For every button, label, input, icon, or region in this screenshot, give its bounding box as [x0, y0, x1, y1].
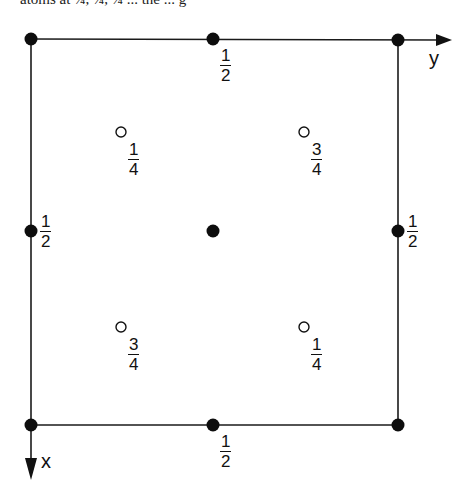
unit-cell-frame: [31, 39, 440, 470]
atom-corner-tl: [25, 33, 38, 46]
label-edge-left: 1 2: [40, 213, 51, 250]
atom-corner-tr: [392, 34, 405, 47]
atom-open-tl: [116, 127, 126, 137]
label-open-tr: 3 4: [311, 141, 322, 178]
axis-label-y: y: [429, 48, 439, 68]
filled-atoms: [25, 33, 405, 432]
atom-center: [207, 225, 220, 238]
axis-label-x: x: [41, 451, 51, 471]
atom-corner-bl: [25, 419, 38, 432]
atom-edge-bottom: [207, 419, 220, 432]
atom-edge-right: [392, 225, 405, 238]
atom-open-bl: [116, 322, 126, 332]
atom-corner-br: [392, 419, 405, 432]
label-edge-bottom: 1 2: [220, 433, 231, 470]
atom-open-br: [299, 322, 309, 332]
label-open-bl: 3 4: [128, 336, 139, 373]
unit-cell-diagram: [0, 0, 465, 496]
label-edge-top: 1 2: [220, 47, 231, 84]
label-edge-right: 1 2: [407, 213, 418, 250]
atom-open-tr: [299, 127, 309, 137]
atom-edge-top: [207, 33, 220, 46]
y-axis-line: [31, 39, 440, 40]
x-axis-arrow-icon: [25, 458, 37, 480]
label-open-br: 1 4: [311, 336, 322, 373]
atom-edge-left: [25, 225, 38, 238]
label-open-tl: 1 4: [128, 141, 139, 178]
y-axis-arrow-icon: [436, 34, 452, 46]
